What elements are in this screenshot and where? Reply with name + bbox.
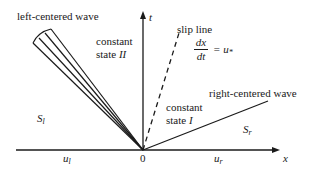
x-axis-label: x: [283, 153, 288, 164]
riemann-diagram: left-centered wave t slip line dx dt = u…: [0, 0, 314, 175]
right-wave-label: right-centered wave: [209, 88, 297, 99]
slip-eq-denominator: dt: [193, 51, 209, 62]
state-i-label-line1: constant: [166, 102, 203, 113]
state-ii-label-line2: state II: [96, 49, 126, 60]
left-wave-label: left-centered wave: [17, 11, 99, 22]
slip-eq-rhs: = u*: [213, 44, 233, 57]
t-axis-arrow-icon: [140, 11, 146, 19]
left-wave-fan: [33, 29, 143, 150]
slip-line: [143, 33, 179, 150]
state-ii-label-line1: constant: [96, 36, 133, 47]
slip-eq-numerator: dx: [193, 37, 209, 48]
state-i-label-line2: state I: [166, 115, 193, 126]
x-axis-arrow-icon: [272, 147, 280, 153]
u-right-label: ur: [214, 153, 223, 166]
origin-label: 0: [140, 153, 146, 164]
slip-line-label: slip line: [177, 24, 212, 35]
u-left-label: ul: [63, 153, 71, 166]
s-left-label: Sl: [37, 113, 45, 126]
t-axis-label: t: [149, 12, 152, 23]
s-right-label: Sr: [243, 124, 252, 137]
